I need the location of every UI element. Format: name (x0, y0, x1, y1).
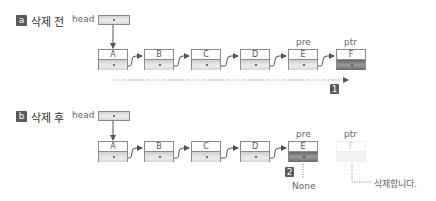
step-1-badge: 1 (330, 84, 339, 94)
node-f-deleted: F (336, 141, 366, 162)
connector-layer (0, 0, 436, 201)
pre-label-b: pre (296, 129, 311, 139)
ptr-label-b: ptr (344, 129, 357, 139)
node-e: E (288, 49, 318, 70)
head-label-b: head (72, 110, 94, 120)
panel-b-badge: b (16, 111, 27, 122)
node-b: B (144, 49, 174, 70)
panel-a-badge: a (16, 15, 27, 26)
node-d-b: D (240, 141, 270, 162)
none-label: None (292, 181, 315, 191)
step-2-badge: 2 (285, 167, 294, 177)
head-pointer (98, 15, 130, 25)
head-pointer-b (98, 111, 130, 121)
node-f: F (336, 49, 366, 70)
node-c: C (191, 49, 221, 70)
ptr-label: ptr (344, 37, 357, 47)
pre-label: pre (296, 37, 311, 47)
node-b-b: B (144, 141, 174, 162)
node-a: A (98, 49, 128, 70)
node-a-b: A (98, 141, 128, 162)
node-c-b: C (191, 141, 221, 162)
node-d: D (240, 49, 270, 70)
node-e-b: E (288, 141, 318, 162)
delete-label: 삭제합니다. (374, 177, 417, 190)
panel-b-title: 삭제 후 (31, 109, 65, 125)
head-label: head (72, 14, 94, 24)
panel-a-title: 삭제 전 (31, 13, 65, 29)
